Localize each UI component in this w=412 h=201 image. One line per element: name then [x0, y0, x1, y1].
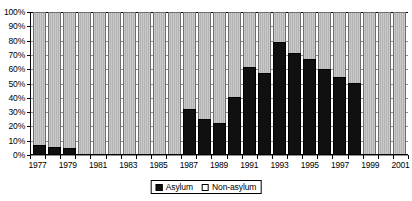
- x-axis-tick-label: 1977: [28, 160, 46, 170]
- bar-segment-asylum: [258, 73, 272, 154]
- x-axis-tick: [302, 155, 303, 159]
- x-axis-tick: [211, 155, 212, 159]
- x-axis-tick: [363, 155, 364, 159]
- bar-column: [213, 12, 227, 154]
- bar-column: [33, 12, 47, 154]
- x-axis-tick-label: 1991: [240, 160, 258, 170]
- bar-segment-non-asylum: [78, 12, 92, 154]
- bar-segment-non-asylum: [168, 12, 182, 154]
- legend-item: Non-asylum: [202, 182, 256, 192]
- x-axis-tick: [317, 155, 318, 159]
- x-axis-tick: [121, 155, 122, 159]
- x-axis-tick: [60, 155, 61, 159]
- bar-column: [198, 12, 212, 154]
- bar-segment-non-asylum: [138, 12, 152, 154]
- bar-segment-non-asylum: [378, 12, 392, 154]
- bar-column: [63, 12, 77, 154]
- bar-segment-non-asylum: [93, 12, 107, 154]
- bar-column: [228, 12, 242, 154]
- bar-segment-non-asylum: [363, 12, 377, 154]
- bar-column: [123, 12, 137, 154]
- bar-segment-asylum: [333, 77, 347, 154]
- bar-column: [93, 12, 107, 154]
- y-axis-tick-label: 80%: [9, 36, 25, 46]
- bar-column: [318, 12, 332, 154]
- bar-column: [108, 12, 122, 154]
- bar-column: [243, 12, 257, 154]
- legend-item: Asylum: [156, 182, 193, 192]
- x-axis-tick: [287, 155, 288, 159]
- bar-column: [393, 12, 407, 154]
- x-axis-tick: [257, 155, 258, 159]
- x-axis-tick: [151, 155, 152, 159]
- y-axis-tick-label: 0%: [13, 150, 25, 160]
- bar-segment-asylum: [303, 59, 317, 154]
- bar-column: [183, 12, 197, 154]
- legend-label: Asylum: [166, 182, 193, 192]
- x-axis-tick: [166, 155, 167, 159]
- x-axis-tick: [30, 155, 31, 159]
- bar-segment-asylum: [213, 123, 227, 154]
- bar-column: [348, 12, 362, 154]
- bar-segment-asylum: [288, 53, 302, 154]
- x-axis-tick: [348, 155, 349, 159]
- x-axis-tick: [106, 155, 107, 159]
- y-axis-tick-label: 90%: [9, 21, 25, 31]
- x-axis-tick: [408, 155, 409, 159]
- bar-segment-non-asylum: [273, 12, 287, 42]
- bar-segment-asylum: [33, 145, 47, 154]
- bar-segment-non-asylum: [393, 12, 407, 154]
- bar-column: [363, 12, 377, 154]
- bar-segment-asylum: [348, 83, 362, 154]
- bar-segment-non-asylum: [348, 12, 362, 83]
- bar-segment-asylum: [243, 67, 257, 154]
- bar-segment-non-asylum: [123, 12, 137, 154]
- y-axis-tick-label: 70%: [9, 50, 25, 60]
- x-axis-tick: [136, 155, 137, 159]
- x-axis-tick: [75, 155, 76, 159]
- y-axis-tick-label: 60%: [9, 64, 25, 74]
- x-axis-tick: [272, 155, 273, 159]
- bar-segment-non-asylum: [258, 12, 272, 73]
- x-axis-tick-label: 1999: [361, 160, 379, 170]
- bar-segment-non-asylum: [318, 12, 332, 69]
- x-axis-tick: [332, 155, 333, 159]
- y-axis-tick-label: 40%: [9, 93, 25, 103]
- bar-segment-non-asylum: [183, 12, 197, 109]
- bar-segment-non-asylum: [33, 12, 47, 145]
- bar-segment-asylum: [318, 69, 332, 154]
- y-axis: 0%10%20%30%40%50%60%70%80%90%100%: [0, 0, 30, 201]
- bar-segment-non-asylum: [213, 12, 227, 123]
- x-axis-tick-label: 1995: [301, 160, 319, 170]
- legend-swatch-icon: [202, 184, 209, 191]
- bar-segment-asylum: [183, 109, 197, 154]
- bar-segment-non-asylum: [63, 12, 77, 148]
- bar-column: [78, 12, 92, 154]
- bar-segment-non-asylum: [243, 12, 257, 67]
- bar-column: [303, 12, 317, 154]
- bar-column: [48, 12, 62, 154]
- bar-segment-asylum: [273, 42, 287, 154]
- bar-column: [288, 12, 302, 154]
- bar-segment-asylum: [198, 119, 212, 155]
- bar-column: [168, 12, 182, 154]
- bar-segment-non-asylum: [303, 12, 317, 59]
- bar-column: [153, 12, 167, 154]
- bar-series-group: [31, 12, 408, 154]
- y-axis-tick-label: 20%: [9, 121, 25, 131]
- x-axis-tick: [196, 155, 197, 159]
- bar-segment-non-asylum: [288, 12, 302, 53]
- bar-segment-asylum: [228, 97, 242, 154]
- x-axis: 1977197919811983198519871989199119931995…: [30, 160, 408, 174]
- bar-column: [273, 12, 287, 154]
- chart-container: 0%10%20%30%40%50%60%70%80%90%100% 197719…: [0, 0, 412, 201]
- legend-swatch-icon: [156, 184, 163, 191]
- bar-column: [378, 12, 392, 154]
- x-axis-tick-label: 1987: [180, 160, 198, 170]
- x-axis-tick-label: 1981: [89, 160, 107, 170]
- x-axis-tick: [393, 155, 394, 159]
- bar-segment-non-asylum: [198, 12, 212, 119]
- x-axis-ticks: [30, 155, 408, 159]
- y-axis-tick-label: 30%: [9, 107, 25, 117]
- x-axis-tick: [378, 155, 379, 159]
